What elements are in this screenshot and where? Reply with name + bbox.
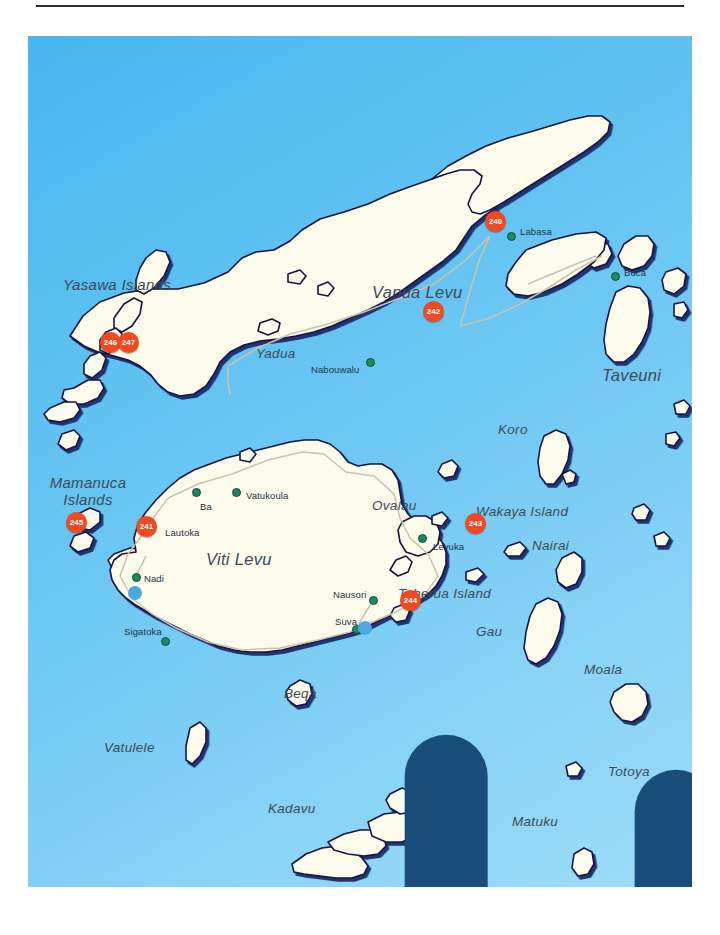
land-yasawa-1 [136, 250, 170, 294]
land-taveuni [604, 286, 650, 362]
land-islet-nw [58, 430, 80, 450]
town-dot-nabouwalu[interactable] [366, 358, 375, 367]
land-qamea [662, 268, 686, 294]
land-yasawa-6 [44, 402, 80, 422]
land-islet-e5 [654, 532, 670, 546]
town-dot-labasa[interactable] [507, 232, 516, 241]
town-dot-nausori[interactable] [369, 596, 378, 605]
land-islet-vatoa [432, 512, 448, 526]
marker-241[interactable]: 241 [136, 516, 157, 537]
marker-245[interactable]: 245 [66, 512, 87, 533]
fiji-map-plate[interactable]: Yasawa Islands Yadua Vanua Levu Taveuni … [28, 36, 692, 887]
page-top-rule [36, 5, 684, 7]
land-islet-batiki [466, 568, 484, 582]
town-dot-sigatoka[interactable] [161, 637, 170, 646]
land-islet-e1 [674, 400, 690, 414]
land-yasawa-5 [62, 380, 104, 404]
land-yasawa-4 [84, 352, 106, 378]
road-nabouwalu-spur [228, 366, 230, 394]
marker-243[interactable]: 243 [465, 513, 486, 534]
land-taveuni-islets [674, 302, 688, 318]
airport-icon-nadi [128, 586, 142, 600]
land-islet-e4 [632, 504, 650, 520]
land-nairai [556, 552, 582, 588]
marker-pair-246-247: 246 247 [100, 332, 136, 353]
land-wakaya [504, 542, 526, 556]
land-islet-e3 [562, 470, 576, 484]
road-labasa-branch [460, 236, 490, 326]
land-makogai [438, 460, 458, 478]
land-islet-e2 [666, 432, 680, 446]
land-mamanuca-2 [70, 532, 94, 552]
town-dot-vatukoula[interactable] [232, 488, 241, 497]
town-dot-ba[interactable] [192, 488, 201, 497]
land-rabi [618, 236, 654, 270]
marker-242[interactable]: 242 [423, 301, 444, 322]
airport-icon-suva [358, 621, 372, 635]
marker-240[interactable]: 240 [485, 211, 506, 232]
town-dot-buca[interactable] [611, 272, 620, 281]
town-dot-levuka[interactable] [418, 534, 427, 543]
town-dot-nadi[interactable] [132, 573, 141, 582]
map-page: Yasawa Islands Yadua Vanua Levu Taveuni … [0, 0, 720, 935]
land-buca-lobe [506, 232, 606, 296]
marker-244[interactable]: 244 [400, 590, 421, 611]
marker-247[interactable]: 247 [118, 332, 139, 353]
